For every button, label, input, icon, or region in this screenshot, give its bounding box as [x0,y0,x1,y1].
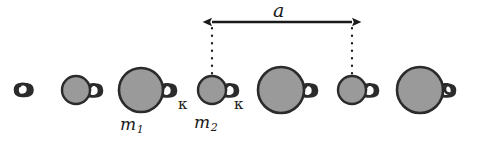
mass-large-2 [258,67,304,113]
mass-balls [62,67,443,113]
mass-light-label: m2 [194,114,217,131]
mass-heavy-symbol: m [120,114,136,134]
mass-large-3 [397,67,443,113]
mass-light-symbol: m [194,112,210,132]
mass-heavy-label: m1 [120,116,143,133]
mass-small-3 [338,76,366,104]
spring-constant-label-left: κ [178,97,187,112]
spring-segment-left-end [15,84,33,96]
mass-light-subscript: 2 [211,121,218,134]
mass-small-1 [62,76,90,104]
mass-heavy-subscript: 1 [137,123,144,136]
spring-constant-label-right: κ [234,97,243,112]
mass-small-2 [198,76,226,104]
lattice-constant-label: a [273,1,284,20]
mass-large-1 [119,68,163,112]
chain-diagram-canvas [0,0,497,144]
spring-mass-chain-figure: a m1 m2 κ κ [0,0,497,144]
